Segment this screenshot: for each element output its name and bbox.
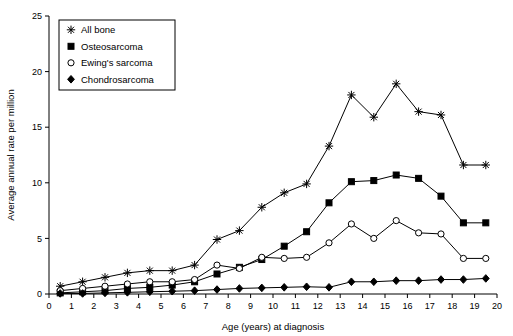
- data-point-marker-3-18: [438, 231, 444, 237]
- data-point-marker-2-13: [326, 200, 332, 206]
- data-point-marker-2-14: [348, 179, 354, 185]
- data-point-marker-legend-2: [68, 43, 74, 49]
- x-tick-label: 12: [313, 301, 323, 311]
- y-tick-label: 20: [32, 67, 42, 77]
- data-point-marker-3-19: [460, 255, 466, 261]
- x-tick-label: 10: [268, 301, 278, 311]
- data-point-marker-1-2: [78, 278, 86, 286]
- data-point-marker-1-13: [325, 142, 333, 150]
- x-tick-label: 17: [425, 301, 435, 311]
- x-tick-label: 4: [136, 301, 141, 311]
- data-point-marker-1-16: [392, 80, 400, 88]
- data-point-marker-1-15: [370, 113, 378, 121]
- line-chart-canvas: 0510152025 01234567891011121314151617181…: [0, 0, 513, 336]
- data-point-marker-3-10: [259, 254, 265, 260]
- x-tick-label: 20: [492, 301, 502, 311]
- x-tick-label: 13: [335, 301, 345, 311]
- data-point-marker-3-17: [416, 230, 422, 236]
- data-point-marker-1-6: [168, 266, 176, 274]
- x-tick-label: 19: [470, 301, 480, 311]
- data-point-marker-1-14: [347, 91, 355, 99]
- data-point-marker-3-8: [214, 262, 220, 268]
- data-point-marker-2-15: [371, 178, 377, 184]
- x-axis-title: Age (years) at diagnosis: [222, 321, 325, 332]
- data-point-marker-1-10: [258, 203, 266, 211]
- data-point-marker-3-14: [348, 221, 354, 227]
- x-tick-label: 9: [248, 301, 253, 311]
- data-point-marker-1-11: [280, 189, 288, 197]
- data-point-marker-3-7: [192, 276, 198, 282]
- x-tick-label: 2: [91, 301, 96, 311]
- x-tick-label: 6: [181, 301, 186, 311]
- legend: All boneOsteosarcomaEwing's sarcomaChond…: [59, 20, 175, 90]
- y-tick-label: 10: [32, 178, 42, 188]
- data-point-marker-1-7: [190, 261, 198, 269]
- data-point-marker-1-20: [482, 161, 490, 169]
- data-point-marker-3-15: [371, 235, 377, 241]
- data-point-marker-2-12: [304, 229, 310, 235]
- x-tick-label: 7: [203, 301, 208, 311]
- x-tick-label: 15: [380, 301, 390, 311]
- data-point-marker-3-20: [483, 255, 489, 261]
- x-tick-label: 14: [358, 301, 368, 311]
- data-point-marker-2-16: [393, 172, 399, 178]
- data-point-marker-1-12: [302, 180, 310, 188]
- data-point-marker-legend-1: [67, 26, 75, 34]
- legend-item-label: Ewing's sarcoma: [81, 57, 153, 68]
- legend-item-4: Chondrosarcoma: [68, 74, 155, 85]
- data-point-marker-3-12: [304, 254, 310, 260]
- x-tick-label: 8: [226, 301, 231, 311]
- chart-figure: 0510152025 01234567891011121314151617181…: [0, 0, 513, 336]
- data-point-marker-2-20: [483, 220, 489, 226]
- data-point-marker-1-8: [213, 235, 221, 243]
- data-point-marker-3-4: [124, 281, 130, 287]
- data-point-marker-3-5: [147, 279, 153, 285]
- x-tick-label: 3: [114, 301, 119, 311]
- data-point-marker-1-17: [414, 107, 422, 115]
- data-point-marker-2-18: [438, 193, 444, 199]
- x-tick-label: 5: [158, 301, 163, 311]
- x-tick-label: 16: [402, 301, 412, 311]
- x-tick-label: 11: [291, 301, 300, 311]
- data-point-marker-2-8: [214, 271, 220, 277]
- data-point-marker-1-18: [437, 111, 445, 119]
- data-point-marker-3-16: [393, 218, 399, 224]
- x-tick-label: 0: [46, 301, 51, 311]
- y-tick-label: 15: [32, 122, 42, 132]
- data-point-marker-3-9: [236, 265, 242, 271]
- data-point-marker-3-13: [326, 240, 332, 246]
- data-point-marker-1-4: [123, 269, 131, 277]
- y-tick-label: 25: [32, 11, 42, 21]
- data-point-marker-2-17: [416, 175, 422, 181]
- data-point-marker-1-3: [101, 273, 109, 281]
- y-tick-label: 0: [37, 289, 42, 299]
- y-tick-label: 5: [37, 234, 42, 244]
- data-point-marker-2-11: [281, 243, 287, 249]
- legend-item-label: All bone: [81, 24, 115, 35]
- data-point-marker-1-9: [235, 226, 243, 234]
- data-point-marker-3-11: [281, 255, 287, 261]
- data-point-marker-legend-3: [68, 60, 74, 66]
- legend-item-3: Ewing's sarcoma: [68, 57, 153, 68]
- x-tick-label: 1: [69, 301, 74, 311]
- data-point-marker-3-6: [169, 279, 175, 285]
- data-point-marker-1-5: [146, 266, 154, 274]
- legend-item-label: Chondrosarcoma: [81, 74, 155, 85]
- legend-item-label: Osteosarcoma: [81, 41, 143, 52]
- x-tick-label: 18: [447, 301, 457, 311]
- data-point-marker-2-19: [460, 220, 466, 226]
- y-axis-title: Average annual rate per million: [5, 89, 16, 220]
- data-point-marker-1-19: [459, 161, 467, 169]
